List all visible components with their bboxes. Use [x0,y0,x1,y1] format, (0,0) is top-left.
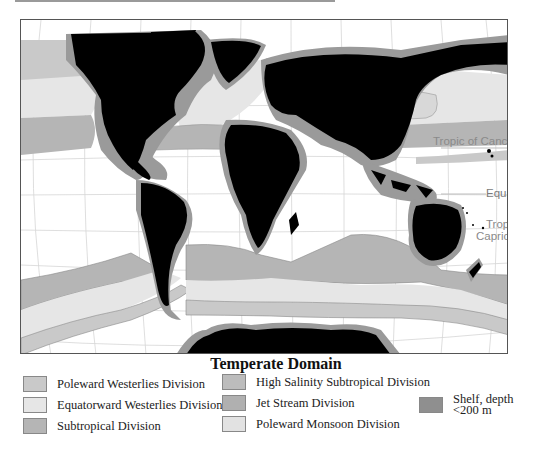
legend-label: Poleward Westerlies Division [57,377,205,392]
legend-label: Jet Stream Division [256,396,355,411]
legend-swatch [23,376,47,392]
tropic-of-capricorn-label-line2: Capricorn [476,230,508,242]
legend-title: Temperate Domain [0,355,552,373]
legend-shelf-label: Shelf, depth <200 m [453,394,513,416]
legend-item-shelf: Shelf, depth <200 m [419,393,513,417]
legend-item-poleward-monsoon: Poleward Monsoon Division [222,415,400,433]
legend-swatch [419,397,443,413]
legend-item-jet-stream: Jet Stream Division [222,394,355,412]
legend-label: Subtropical Division [57,419,161,434]
legend-item-equatorward-westerlies: Equatorward Westerlies Division [23,396,222,414]
top-rule [15,0,335,2]
legend-label: High Salinity Subtropical Division [256,375,430,390]
legend-swatch [23,397,47,413]
world-map: Tropic of Cancer Equator Tropic of Capri… [20,19,508,354]
tropic-of-capricorn-label-line1: Tropic of [486,218,508,230]
legend-item-subtropical: Subtropical Division [23,417,161,435]
legend-label: Poleward Monsoon Division [256,417,400,432]
map-canvas [21,20,508,354]
legend-label: Equatorward Westerlies Division [57,398,222,413]
legend-item-poleward-westerlies: Poleward Westerlies Division [23,375,205,393]
legend-item-high-salinity-subtropical: High Salinity Subtropical Division [222,373,430,391]
legend-swatch [222,395,246,411]
legend-swatch [222,416,246,432]
shelf-label-line2: <200 m [453,405,513,416]
equator-label: Equator [486,187,508,199]
legend-swatch [222,374,246,390]
tropic-of-cancer-label: Tropic of Cancer [433,135,508,147]
legend-swatch [23,418,47,434]
